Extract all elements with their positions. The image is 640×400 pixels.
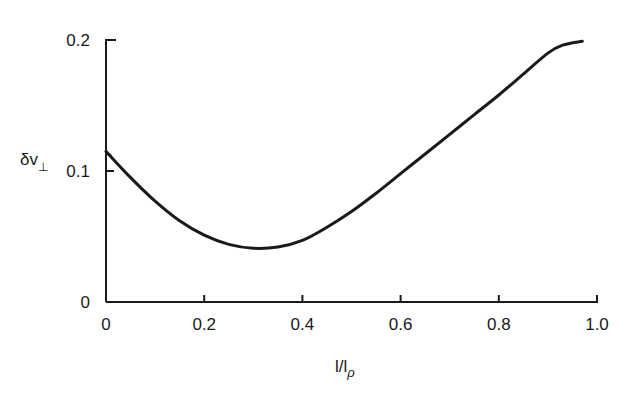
data-curve [106,41,582,248]
y-tick-label: 0.1 [66,162,90,181]
y-axis-label: δv⊥ [20,150,48,174]
x-axis-label-main: l/l [335,357,347,376]
y-tick-label: 0 [81,293,90,312]
x-axis [106,295,597,302]
y-axis-label-main: δv [20,150,38,169]
x-tick-label: 0.4 [291,315,315,334]
x-tick-label: 0 [101,315,110,334]
y-axis-label-sub: ⊥ [38,160,48,174]
x-tick-label: 0.6 [389,315,413,334]
x-tick-label: 1.0 [585,315,609,334]
x-tick-label: 0.2 [192,315,216,334]
x-axis-label: l/lρ [335,357,355,380]
y-tick-label: 0.2 [66,31,90,50]
x-tick-label: 0.8 [487,315,511,334]
x-ticks: 00.20.40.60.81.0 [101,295,609,334]
axes [106,40,597,302]
x-axis-label-sub: ρ [346,365,355,380]
line-chart: 00.20.40.60.81.0 00.10.2 δv⊥ l/lρ [0,0,640,400]
